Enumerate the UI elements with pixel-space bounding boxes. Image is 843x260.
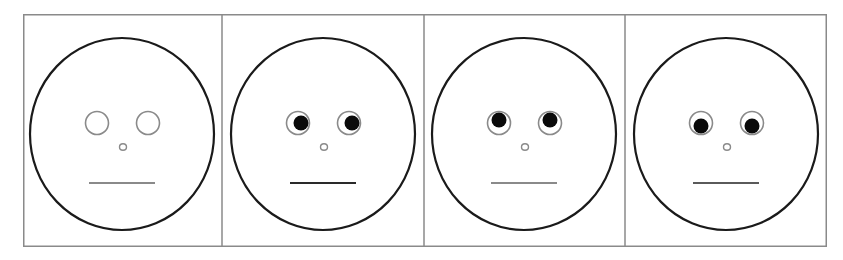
- left-pupil: [694, 119, 709, 134]
- face-panel-2: [231, 38, 415, 230]
- nose: [321, 144, 328, 150]
- face-panel-strip: [23, 14, 827, 247]
- head-outline: [231, 38, 415, 230]
- left-pupil: [294, 116, 309, 131]
- faces-diagram: [23, 14, 827, 247]
- right-pupil: [543, 113, 558, 128]
- left-eye-outline: [86, 112, 109, 135]
- nose: [120, 144, 127, 150]
- face-panel-3: [432, 38, 616, 230]
- nose: [522, 144, 529, 150]
- head-outline: [432, 38, 616, 230]
- head-outline: [30, 38, 214, 230]
- right-pupil: [745, 119, 760, 134]
- face-panel-4: [634, 38, 818, 230]
- right-pupil: [345, 116, 360, 131]
- nose: [724, 144, 731, 150]
- face-panel-1: [30, 38, 214, 230]
- head-outline: [634, 38, 818, 230]
- left-pupil: [492, 113, 507, 128]
- right-eye-outline: [137, 112, 160, 135]
